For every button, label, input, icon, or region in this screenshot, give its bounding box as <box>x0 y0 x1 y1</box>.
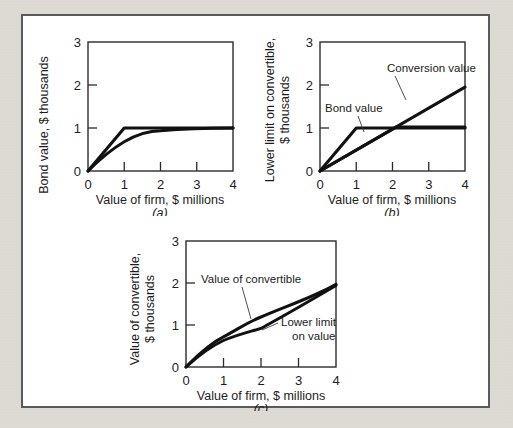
chart-panel-a: Bond value, $ thousands 3 2 1 0 0 1 2 3 <box>33 20 255 216</box>
chart-a-xtick-4: 4 <box>229 177 236 192</box>
chart-b-annotation-conversion-value: Conversion value <box>387 62 476 74</box>
chart-c-leader-value-of-convertible <box>242 287 251 319</box>
chart-b-svg: Lower limit on convertible, $ thousands … <box>261 20 487 216</box>
chart-c-xtick-3: 3 <box>295 373 302 388</box>
chart-a-xtick-1: 1 <box>121 177 128 192</box>
chart-c-ytick-0: 0 <box>172 360 179 375</box>
chart-b-ytick-1: 1 <box>306 121 313 136</box>
chart-panel-c: Value of convertible, $ thousands 3 2 1 … <box>123 221 363 411</box>
chart-b-ylabel-line2: $ thousands <box>278 76 292 144</box>
chart-c-xtick-0: 0 <box>182 373 189 388</box>
chart-b-xtick-2: 2 <box>389 177 396 192</box>
chart-a-ytick-1: 1 <box>74 121 81 136</box>
chart-a-ylabel: Bond value, $ thousands <box>37 56 51 194</box>
chart-b-annotation-bond-value: Bond value <box>325 102 383 114</box>
chart-c-xtick-1: 1 <box>220 373 227 388</box>
chart-c-xtick-4: 4 <box>332 373 339 388</box>
chart-a-ytick-2: 2 <box>74 78 81 93</box>
chart-c-ytick-1: 1 <box>172 318 179 333</box>
chart-b-ytick-3: 3 <box>306 35 313 50</box>
chart-c-panel-letter: (c) <box>254 402 269 411</box>
chart-b-leader-bond-value <box>358 116 364 132</box>
chart-c-xtick-2: 2 <box>257 373 264 388</box>
chart-c-ytick-3: 3 <box>172 234 179 249</box>
chart-c-xlabel: Value of firm, $ millions <box>197 389 325 403</box>
chart-b-xlabel: Value of firm, $ millions <box>328 193 456 207</box>
chart-b-panel-letter: (b) <box>384 206 399 216</box>
chart-b-ytick-2: 2 <box>306 78 313 93</box>
figure-container: Bond value, $ thousands 3 2 1 0 0 1 2 3 <box>21 14 490 408</box>
chart-a-ytick-0: 0 <box>74 164 81 179</box>
chart-c-annotation-value-of-convertible: Value of convertible <box>201 273 301 285</box>
chart-b-xtick-4: 4 <box>461 177 468 192</box>
chart-c-svg: Value of convertible, $ thousands 3 2 1 … <box>123 221 363 411</box>
chart-a-xtick-2: 2 <box>157 177 164 192</box>
chart-a-xlabel: Value of firm, $ millions <box>96 193 224 207</box>
chart-a-svg: Bond value, $ thousands 3 2 1 0 0 1 2 3 <box>33 20 255 216</box>
chart-a-xtick-3: 3 <box>193 177 200 192</box>
chart-panel-b: Lower limit on convertible, $ thousands … <box>261 20 487 216</box>
chart-b-xtick-1: 1 <box>353 177 360 192</box>
chart-b-ytick-0: 0 <box>306 164 313 179</box>
chart-b-leader-conversion-value <box>395 76 406 100</box>
chart-c-annotation-lower-limit-line1: Lower limit <box>281 316 337 328</box>
chart-b-xtick-3: 3 <box>425 177 432 192</box>
chart-a-xtick-0: 0 <box>84 177 91 192</box>
chart-c-annotation-lower-limit-line2: on value <box>292 330 335 342</box>
chart-c-ylabel-line1: Value of convertible, <box>128 253 142 365</box>
chart-b-xtick-0: 0 <box>316 177 323 192</box>
chart-a-panel-letter: (a) <box>152 206 167 216</box>
chart-a-ytick-3: 3 <box>74 35 81 50</box>
chart-c-ylabel-line2: $ thousands <box>143 275 157 343</box>
chart-b-ylabel-line1: Lower limit on convertible, <box>263 38 277 183</box>
chart-c-ytick-2: 2 <box>172 276 179 291</box>
